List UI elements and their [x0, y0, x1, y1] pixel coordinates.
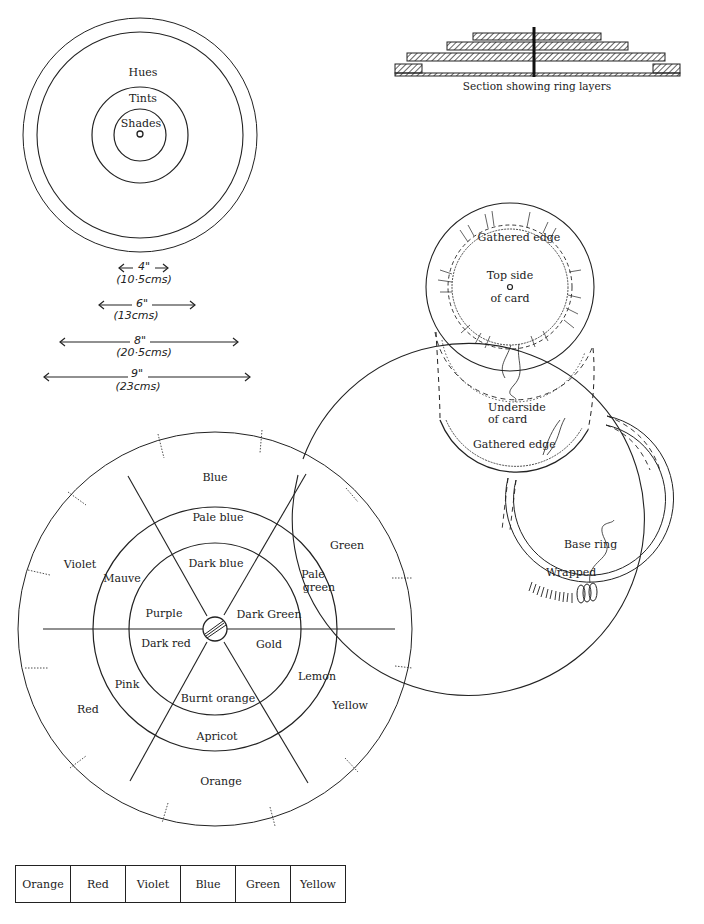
hue-orange: Orange — [200, 775, 241, 788]
hues-label: Hues — [129, 66, 158, 79]
tint-pale-green-1: Pale — [301, 568, 325, 581]
card-center-hole-icon — [508, 285, 513, 290]
table-cell: Violet — [126, 866, 181, 902]
gathered-edge-bottom-label: Gathered edge — [473, 438, 556, 451]
measure-8in-cm: (20·5cms) — [116, 346, 172, 359]
shade-dark-red: Dark red — [141, 637, 191, 650]
measure-9in-cm: (23cms) — [115, 380, 160, 393]
tints-label: Tints — [129, 92, 157, 105]
tint-apricot: Apricot — [196, 730, 239, 743]
top-side-label: Top side — [487, 269, 533, 282]
center-hole-icon — [137, 131, 143, 137]
shade-dark-green: Dark Green — [237, 608, 302, 621]
hue-yellow: Yellow — [331, 699, 368, 712]
hue-violet: Violet — [63, 558, 97, 571]
shade-gold: Gold — [256, 638, 282, 651]
hue-red: Red — [77, 703, 99, 716]
section-caption: Section showing ring layers — [463, 80, 611, 92]
tint-pink: Pink — [115, 678, 140, 691]
card-assembly-labels: Gathered edge Top side of card Underside… — [473, 231, 617, 579]
table-cell: Red — [71, 866, 126, 902]
shade-burnt-orange: Burnt orange — [181, 692, 256, 705]
gathered-edge-top-label: Gathered edge — [478, 231, 561, 244]
measure-4in-cm: (10·5cms) — [116, 273, 172, 286]
base-ring-label: Base ring — [564, 538, 617, 551]
shade-dark-blue: Dark blue — [189, 557, 244, 570]
concentric-rings-diagram: Hues Tints Shades — [23, 18, 257, 252]
section-diagram: Section showing ring layers — [395, 27, 680, 92]
color-sequence-table: Orange Red Violet Blue Green Yellow — [15, 865, 346, 903]
shades-label: Shades — [121, 117, 162, 130]
table-cell: Orange — [16, 866, 71, 902]
hue-blue: Blue — [202, 471, 227, 484]
measurement-labels: 4" (10·5cms) 6" (13cms) 8" (20·5cms) 9" … — [113, 258, 171, 393]
of-card-top-label: of card — [490, 292, 529, 305]
wrapped-label: Wrapped — [546, 566, 596, 579]
tint-lemon: Lemon — [298, 670, 336, 683]
table-cell: Yellow — [291, 866, 345, 902]
measure-4in: 4" — [138, 260, 150, 273]
hue-green: Green — [330, 539, 364, 552]
tint-pale-blue: Pale blue — [192, 511, 243, 524]
table-cell: Blue — [181, 866, 236, 902]
tint-pale-green-2: green — [303, 581, 335, 594]
of-card-under-label: of card — [488, 413, 527, 426]
diagram-canvas: Hues Tints Shades 4" (10·5cms) 6" (13cms… — [0, 0, 704, 924]
card-assembly-diagram — [426, 203, 674, 603]
table-cell: Green — [236, 866, 291, 902]
shade-purple: Purple — [146, 607, 183, 620]
measure-9in: 9" — [131, 367, 143, 380]
tint-mauve: Mauve — [103, 572, 141, 585]
measure-6in-cm: (13cms) — [113, 309, 158, 322]
